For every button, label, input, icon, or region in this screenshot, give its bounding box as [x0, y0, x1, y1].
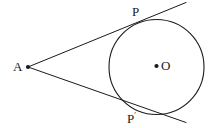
- label-point-p-prime-mark: ′: [134, 111, 136, 120]
- figure-svg-canvas: [0, 0, 212, 128]
- label-point-o: O: [161, 59, 170, 72]
- point-o-dot: [154, 64, 158, 68]
- label-point-a: A: [13, 60, 22, 73]
- label-point-p-prime: P′: [127, 112, 136, 125]
- point-a-dot: [26, 65, 30, 69]
- label-point-p: P: [132, 5, 139, 18]
- geometry-figure: A P P′ O: [0, 0, 212, 128]
